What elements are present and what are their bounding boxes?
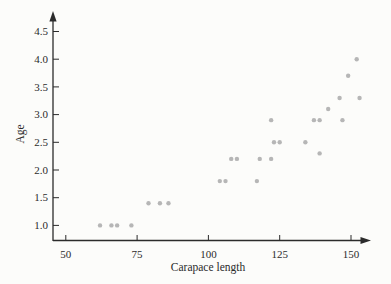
y-tick-label: 1.5 [34, 191, 48, 203]
data-point [229, 157, 233, 161]
data-point [317, 151, 321, 155]
data-point [269, 157, 273, 161]
y-tick-label: 4.0 [34, 53, 48, 65]
data-point [269, 118, 273, 122]
data-point [278, 140, 282, 144]
y-tick-label: 3.5 [34, 81, 48, 93]
y-tick-label: 2.0 [34, 164, 48, 176]
data-point [129, 223, 133, 227]
data-point [115, 223, 119, 227]
data-point [272, 140, 276, 144]
scatter-plot: 1.01.52.02.53.03.54.04.5 Age 50751001251… [0, 0, 391, 284]
y-axis-arrow-icon [49, 11, 56, 22]
y-tick-label: 4.5 [34, 25, 48, 37]
data-point [346, 74, 350, 78]
data-point [235, 157, 239, 161]
data-point [166, 201, 170, 205]
data-point [223, 179, 227, 183]
y-tick-group: 1.01.52.02.53.03.54.04.5 [34, 25, 59, 231]
data-point [337, 96, 341, 100]
data-point [317, 118, 321, 122]
data-point [326, 107, 330, 111]
x-tick-label: 100 [200, 248, 217, 260]
data-points-group [98, 57, 362, 228]
data-point [357, 96, 361, 100]
x-tick-label: 150 [343, 248, 360, 260]
figure-container: 1.01.52.02.53.03.54.04.5 Age 50751001251… [0, 0, 391, 284]
data-point [218, 179, 222, 183]
x-tick-label: 75 [132, 248, 144, 260]
data-point [146, 201, 150, 205]
x-axis-arrow-icon [361, 237, 372, 244]
x-tick-label: 125 [271, 248, 288, 260]
y-tick-label: 1.0 [34, 219, 48, 231]
y-axis-label: Age [14, 124, 27, 143]
data-point [312, 118, 316, 122]
data-point [303, 140, 307, 144]
data-point [355, 57, 359, 61]
data-point [258, 157, 262, 161]
data-point [98, 223, 102, 227]
x-axis-label: Carapace length [171, 261, 246, 274]
data-point [109, 223, 113, 227]
data-point [255, 179, 259, 183]
x-axis: 5075100125150 Carapace length [53, 235, 371, 274]
x-tick-label: 50 [60, 248, 72, 260]
data-point [340, 118, 344, 122]
x-tick-group: 5075100125150 [60, 235, 359, 260]
y-tick-label: 2.5 [34, 136, 48, 148]
data-point [158, 201, 162, 205]
y-tick-label: 3.0 [34, 108, 48, 120]
y-axis: 1.01.52.02.53.03.54.04.5 Age [14, 11, 59, 241]
